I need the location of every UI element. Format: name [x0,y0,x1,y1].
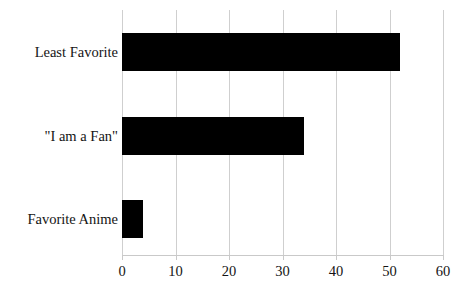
bar-least-favorite [122,33,400,71]
bar-favorite-anime [122,200,143,238]
gridline-60 [443,10,444,255]
tick-mark-0 [122,255,123,260]
x-axis-tick-label-0: 0 [102,264,142,279]
x-axis-tick-label-10: 10 [156,264,196,279]
y-axis-label-least-favorite: Least Favorite [4,45,118,60]
tick-mark-50 [390,255,391,260]
tick-mark-10 [176,255,177,260]
y-axis-labels: Least Favorite "I am a Fan" Favorite Ani… [0,0,118,298]
x-axis-tick-label-50: 50 [370,264,410,279]
tick-mark-40 [336,255,337,260]
tick-mark-20 [229,255,230,260]
tick-mark-60 [443,255,444,260]
x-axis-tick-label-60: 60 [423,264,463,279]
x-axis-tick-label-20: 20 [209,264,249,279]
y-axis-label-favorite-anime: Favorite Anime [4,212,118,227]
bar-chart: Least Favorite "I am a Fan" Favorite Ani… [0,0,464,298]
y-axis-label-i-am-a-fan: "I am a Fan" [4,129,118,144]
x-axis-tick-label-30: 30 [263,264,303,279]
bar-i-am-a-fan [122,117,304,155]
tick-mark-30 [283,255,284,260]
x-axis-tick-label-40: 40 [316,264,356,279]
